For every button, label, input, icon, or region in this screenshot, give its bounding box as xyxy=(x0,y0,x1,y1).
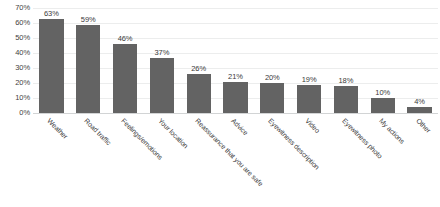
bar-value-label: 63% xyxy=(44,9,59,18)
y-axis-tick-label: 30% xyxy=(0,64,30,72)
x-axis-tick: Feelings/emotions xyxy=(107,115,144,207)
bar-value-label: 10% xyxy=(375,88,390,97)
x-axis-category-label: Weather xyxy=(46,117,70,141)
x-axis-tick: Eyewitness description xyxy=(254,115,291,207)
bars-layer: 63%59%46%37%26%21%20%19%18%10%4% xyxy=(33,8,438,113)
bar-slot: 59% xyxy=(70,8,107,113)
x-axis-tick: Other xyxy=(401,115,438,207)
y-axis: 70%60%50%40%30%20%10%0% xyxy=(0,8,30,113)
bar-slot: 26% xyxy=(180,8,217,113)
y-axis-tick-label: 0% xyxy=(0,109,30,117)
bar-value-label: 21% xyxy=(228,72,243,81)
bar-slot: 18% xyxy=(328,8,365,113)
bar[interactable]: 26% xyxy=(187,74,211,113)
bar-slot: 21% xyxy=(217,8,254,113)
axis-baseline xyxy=(33,113,438,114)
bar-value-label: 18% xyxy=(339,76,354,85)
y-axis-tick-label: 40% xyxy=(0,49,30,57)
bar[interactable]: 4% xyxy=(407,107,431,113)
x-axis-tick: Weather xyxy=(33,115,70,207)
y-axis-tick-label: 50% xyxy=(0,34,30,42)
bar[interactable]: 20% xyxy=(260,83,284,113)
bar[interactable]: 19% xyxy=(297,85,321,114)
y-axis-tick-label: 10% xyxy=(0,94,30,102)
y-axis-tick-label: 20% xyxy=(0,79,30,87)
x-axis-tick: Eyewitness photo xyxy=(328,115,365,207)
bar-value-label: 26% xyxy=(191,64,206,73)
bar[interactable]: 10% xyxy=(371,98,395,113)
bar-slot: 37% xyxy=(143,8,180,113)
x-axis-tick: Road traffic xyxy=(70,115,107,207)
bar-value-label: 59% xyxy=(81,15,96,24)
bar-value-label: 20% xyxy=(265,73,280,82)
bar-slot: 20% xyxy=(254,8,291,113)
x-axis-tick: Reassurance that you are safe xyxy=(180,115,217,207)
x-axis: WeatherRoad trafficFeelings/emotionsYour… xyxy=(33,115,438,207)
bar-slot: 19% xyxy=(291,8,328,113)
bar-slot: 63% xyxy=(33,8,70,113)
plot-area: 63%59%46%37%26%21%20%19%18%10%4% xyxy=(33,8,438,113)
bar-chart: 70%60%50%40%30%20%10%0% 63%59%46%37%26%2… xyxy=(0,0,440,207)
bar[interactable]: 21% xyxy=(223,82,247,114)
bar[interactable]: 46% xyxy=(113,44,137,113)
x-axis-tick: Advice xyxy=(217,115,254,207)
bar-value-label: 4% xyxy=(414,97,425,106)
bar-value-label: 46% xyxy=(118,34,133,43)
y-axis-tick-label: 60% xyxy=(0,19,30,27)
x-axis-category-label: Video xyxy=(303,117,321,135)
x-axis-tick: My actions xyxy=(364,115,401,207)
bar[interactable]: 37% xyxy=(150,58,174,114)
bar[interactable]: 63% xyxy=(39,19,63,114)
bar-value-label: 37% xyxy=(154,48,169,57)
bar-slot: 46% xyxy=(107,8,144,113)
bar[interactable]: 18% xyxy=(334,86,358,113)
x-axis-tick: Video xyxy=(291,115,328,207)
bar-slot: 10% xyxy=(364,8,401,113)
y-axis-tick-label: 70% xyxy=(0,4,30,12)
x-axis-tick: Your location xyxy=(143,115,180,207)
bar-slot: 4% xyxy=(401,8,438,113)
bar-value-label: 19% xyxy=(302,75,317,84)
x-axis-category-label: Advice xyxy=(230,117,250,137)
bar[interactable]: 59% xyxy=(76,25,100,114)
plot-wrapper: 70%60%50%40%30%20%10%0% 63%59%46%37%26%2… xyxy=(0,0,440,120)
x-axis-category-label: Other xyxy=(414,117,432,135)
